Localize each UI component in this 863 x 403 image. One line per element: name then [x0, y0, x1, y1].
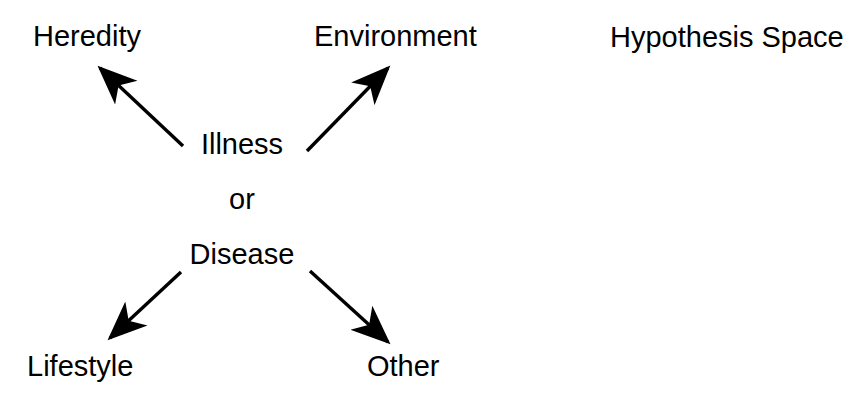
node-label-environment: Environment: [314, 22, 477, 51]
center-label-illness: Illness: [117, 130, 367, 159]
hypothesis-space-diagram: Heredity Environment Hypothesis Space Il…: [0, 0, 863, 403]
arrow-disease-to-other: [310, 271, 388, 342]
node-label-other: Other: [367, 352, 440, 381]
node-label-hypothesis-space: Hypothesis Space: [610, 23, 844, 52]
center-label-or: or: [117, 185, 367, 214]
node-label-heredity: Heredity: [33, 22, 141, 51]
arrow-disease-to-lifestyle: [110, 272, 181, 338]
center-label-disease: Disease: [117, 240, 367, 269]
center-node-illness-or-disease: Illness or Disease: [117, 130, 367, 269]
node-label-lifestyle: Lifestyle: [27, 352, 133, 381]
